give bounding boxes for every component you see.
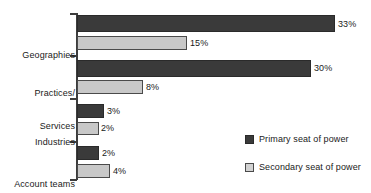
bar-secondary-practices-services[interactable] bbox=[77, 80, 143, 94]
bar-value-label: 4% bbox=[113, 166, 126, 176]
bar-secondary-account-teams[interactable] bbox=[77, 164, 110, 178]
legend-item-primary[interactable]: Primary seat of power bbox=[245, 134, 349, 144]
category-label-line: Practices/ bbox=[34, 88, 75, 99]
bar-value-label: 33% bbox=[338, 19, 356, 29]
y-axis-tick bbox=[70, 13, 77, 15]
bar-value-label: 8% bbox=[146, 82, 159, 92]
category-label-line: Industries bbox=[35, 137, 75, 148]
bar-secondary-industries[interactable] bbox=[77, 122, 99, 135]
bar-primary-geographies[interactable] bbox=[77, 15, 335, 32]
legend-swatch-icon bbox=[245, 135, 254, 144]
legend-label: Primary seat of power bbox=[259, 134, 349, 144]
bar-primary-industries[interactable] bbox=[77, 104, 104, 118]
category-label-line: Account teams bbox=[14, 179, 75, 190]
bar-primary-practices-services[interactable] bbox=[77, 60, 311, 77]
legend-swatch-icon bbox=[245, 163, 254, 172]
bar-value-label: 3% bbox=[107, 106, 120, 116]
category-label-account-teams: Account teams bbox=[14, 157, 75, 193]
legend-label: Secondary seat of power bbox=[259, 162, 361, 172]
bar-secondary-geographies[interactable] bbox=[77, 36, 187, 50]
legend-item-secondary[interactable]: Secondary seat of power bbox=[245, 162, 361, 172]
category-label-line: Geographies bbox=[22, 50, 75, 61]
bar-chart: Geographies Practices/ Services Industri… bbox=[0, 0, 371, 193]
bar-primary-account-teams[interactable] bbox=[77, 146, 99, 160]
bar-value-label: 2% bbox=[102, 148, 115, 158]
bar-value-label: 30% bbox=[314, 63, 332, 73]
bar-value-label: 2% bbox=[101, 123, 114, 133]
bar-value-label: 15% bbox=[190, 38, 208, 48]
